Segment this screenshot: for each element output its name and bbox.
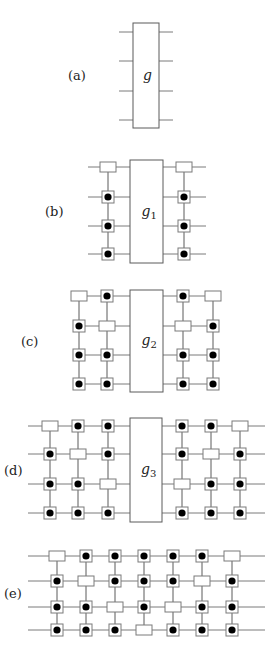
filled-dot-icon [207, 509, 214, 516]
dot-node [196, 601, 208, 613]
filled-dot-icon [104, 509, 111, 516]
dot-node [51, 575, 63, 587]
filled-dot-icon [207, 480, 214, 487]
filled-dot-icon [53, 603, 60, 610]
filled-dot-icon [46, 509, 53, 516]
panel-d: (d)g3 [4, 418, 265, 522]
dot-node [205, 507, 217, 519]
filled-dot-icon [179, 351, 186, 358]
dot-node [109, 624, 121, 636]
rect-node [224, 551, 240, 561]
dot-node [72, 420, 84, 432]
rect-node [42, 421, 58, 431]
rect-node [176, 162, 192, 172]
dot-node [138, 550, 150, 562]
dot-node [138, 575, 150, 587]
filled-dot-icon [178, 422, 185, 429]
rect-node [165, 602, 181, 612]
dot-node [234, 478, 246, 490]
dot-node [73, 378, 85, 390]
panel-label-b: (b) [45, 204, 63, 219]
filled-dot-icon [111, 626, 118, 633]
filled-dot-icon [53, 626, 60, 633]
dot-node [205, 478, 217, 490]
rect-node [107, 602, 123, 612]
filled-dot-icon [103, 380, 110, 387]
filled-dot-icon [198, 603, 205, 610]
panel-label-e: (e) [4, 586, 22, 601]
dot-node [226, 624, 238, 636]
filled-dot-icon [179, 292, 186, 299]
rect-node [100, 162, 116, 172]
filled-dot-icon [209, 351, 216, 358]
panel-e: (e) [4, 550, 265, 636]
dot-node [177, 378, 189, 390]
filled-dot-icon [180, 193, 187, 200]
rect-node [203, 449, 219, 459]
panel-c: (c)g2 [21, 290, 221, 392]
rect-node [100, 479, 116, 489]
dot-node [205, 420, 217, 432]
circuit-diagram-figure: (a)g(b)g1(c)g2(d)g3(e) [0, 0, 275, 650]
rect-node [49, 551, 65, 561]
filled-dot-icon [103, 292, 110, 299]
filled-dot-icon [236, 509, 243, 516]
dot-node [102, 420, 114, 432]
dot-node [72, 478, 84, 490]
filled-dot-icon [169, 552, 176, 559]
rect-node [205, 291, 221, 301]
dot-node [178, 191, 190, 203]
dot-node [102, 220, 114, 232]
dot-node [73, 320, 85, 332]
filled-dot-icon [178, 450, 185, 457]
dot-node [101, 378, 113, 390]
filled-dot-icon [207, 422, 214, 429]
dot-node [177, 290, 189, 302]
dot-node [178, 220, 190, 232]
dot-node [80, 601, 92, 613]
filled-dot-icon [75, 380, 82, 387]
filled-dot-icon [236, 450, 243, 457]
filled-dot-icon [178, 509, 185, 516]
filled-dot-icon [169, 626, 176, 633]
dot-node [196, 550, 208, 562]
rect-node [175, 321, 191, 331]
filled-dot-icon [198, 626, 205, 633]
filled-dot-icon [104, 450, 111, 457]
filled-dot-icon [104, 422, 111, 429]
dot-node [176, 448, 188, 460]
dot-node [226, 575, 238, 587]
rect-node [232, 421, 248, 431]
panel-b: (b)g1 [45, 160, 206, 263]
filled-dot-icon [104, 250, 111, 257]
dot-node [101, 349, 113, 361]
filled-dot-icon [104, 193, 111, 200]
filled-dot-icon [140, 603, 147, 610]
filled-dot-icon [209, 380, 216, 387]
dot-node [167, 550, 179, 562]
dot-node [80, 624, 92, 636]
dot-node [207, 320, 219, 332]
filled-dot-icon [198, 552, 205, 559]
rect-node [136, 625, 152, 635]
dot-node [102, 248, 114, 260]
dot-node [44, 478, 56, 490]
dot-node [178, 248, 190, 260]
dot-node [72, 507, 84, 519]
dot-node [167, 624, 179, 636]
dot-node [102, 191, 114, 203]
filled-dot-icon [111, 577, 118, 584]
filled-dot-icon [209, 322, 216, 329]
dot-node [176, 507, 188, 519]
panel-label-d: (d) [4, 463, 22, 478]
filled-dot-icon [82, 552, 89, 559]
dot-node [176, 420, 188, 432]
filled-dot-icon [46, 480, 53, 487]
filled-dot-icon [104, 222, 111, 229]
dot-node [44, 448, 56, 460]
dot-node [234, 448, 246, 460]
dot-node [138, 601, 150, 613]
rect-node [78, 576, 94, 586]
dot-node [177, 349, 189, 361]
filled-dot-icon [179, 380, 186, 387]
